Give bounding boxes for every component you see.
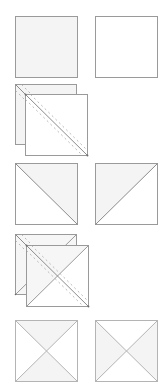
step-3-hst-units: [16, 164, 158, 225]
plain-square: [96, 17, 158, 78]
step-4-layered-hst: [15, 235, 90, 308]
back-hst-dot-bl: [15, 294, 17, 296]
step-5-hourglass-units: [16, 321, 158, 382]
step-1-squares: [16, 17, 158, 78]
step-2-layered-squares: [16, 85, 89, 157]
corner-dot-tl: [25, 94, 27, 96]
front-hst-dot-br: [88, 306, 90, 308]
shaded-square: [16, 17, 78, 78]
corner-dot-br: [87, 155, 89, 157]
quilt-diagram: [0, 0, 167, 387]
front-hst-dot-tl: [26, 245, 28, 247]
